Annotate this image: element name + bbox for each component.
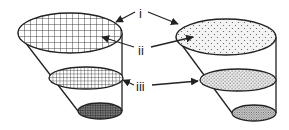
right-bottom-ellipse bbox=[232, 105, 276, 121]
right-cone bbox=[176, 19, 276, 121]
left-cone bbox=[18, 13, 123, 119]
left-bottom-ellipse bbox=[78, 103, 122, 119]
arrow-i-right bbox=[148, 12, 178, 24]
label-ii: ii bbox=[138, 43, 144, 58]
arrow-i-left bbox=[116, 12, 135, 22]
arrow-iii-right bbox=[152, 81, 198, 85]
right-middle-ellipse bbox=[200, 69, 276, 91]
label-i: i bbox=[139, 6, 142, 21]
label-iii-group: iii bbox=[123, 79, 198, 94]
label-iii: iii bbox=[136, 79, 145, 94]
arrow-iii-left bbox=[123, 80, 134, 85]
left-top-ellipse bbox=[18, 13, 122, 53]
label-i-group: i bbox=[116, 6, 178, 24]
left-middle-ellipse bbox=[49, 67, 123, 89]
cone-diagram: i ii iii bbox=[0, 0, 289, 130]
